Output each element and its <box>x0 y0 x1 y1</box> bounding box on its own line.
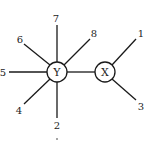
edge-y-8 <box>64 39 90 65</box>
leaf-3-label: 3 <box>138 101 144 112</box>
edge-y-6 <box>24 44 50 65</box>
edge-x-1 <box>112 39 136 65</box>
leaf-6-label: 6 <box>17 34 23 45</box>
node-x: X <box>95 62 115 82</box>
edge-y-4 <box>24 79 50 104</box>
tree-diagram: Y X 1 2 3 4 5 6 7 8 <box>0 0 145 149</box>
node-x-label: X <box>101 66 109 79</box>
leaf-8-label: 8 <box>91 28 97 39</box>
leaf-4-label: 4 <box>16 105 22 116</box>
edge-x-3 <box>112 79 136 100</box>
leaf-7-label: 7 <box>53 13 59 24</box>
node-y: Y <box>47 62 67 82</box>
leaf-5-label: 5 <box>0 67 6 78</box>
leaf-2-label: 2 <box>54 120 60 131</box>
leaf-1-label: 1 <box>138 28 144 39</box>
node-y-label: Y <box>52 66 61 79</box>
dot-mark <box>56 138 58 140</box>
